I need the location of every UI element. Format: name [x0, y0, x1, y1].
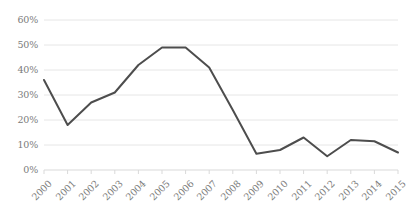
y-axis-tick-label: 60% [0, 14, 38, 25]
y-axis-tick-label: 10% [0, 139, 38, 150]
y-axis-tick-label: 40% [0, 64, 38, 75]
y-axis-tick-label: 0% [0, 164, 38, 175]
y-axis-tick-label: 30% [0, 89, 38, 100]
data-series-line [44, 48, 398, 157]
line-chart: 0%10%20%30%40%50%60% 2000200120022003200… [0, 0, 408, 221]
y-axis-tick-label: 50% [0, 39, 38, 50]
y-axis-tick-label: 20% [0, 114, 38, 125]
